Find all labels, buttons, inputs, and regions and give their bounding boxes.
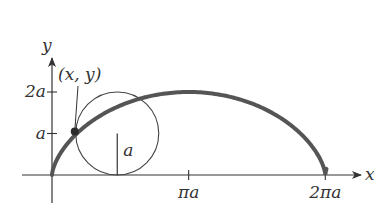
cycloid-curve [52,92,327,175]
x-axis-label: x [365,164,375,184]
cycloid-diagram: x y a2a πa2πa a (x, y) [0,0,388,205]
y-tick-label: 2a [24,81,46,101]
traced-point [71,128,79,136]
x-tick-label: πa [177,182,199,202]
y-tick-label: a [36,123,46,143]
y-axis-label: y [41,35,52,55]
radius-label: a [123,140,133,160]
x-tick-label: 2πa [308,182,341,202]
traced-point-label: (x, y) [58,64,101,84]
